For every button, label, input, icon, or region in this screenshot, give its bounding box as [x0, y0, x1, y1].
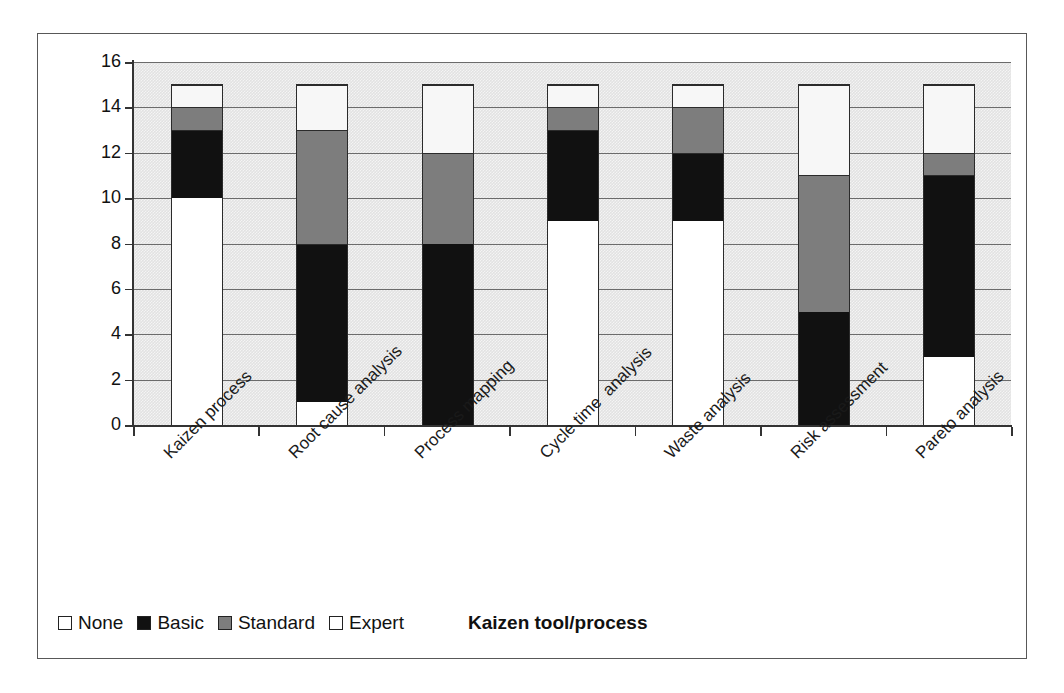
- legend-item-none[interactable]: None: [58, 612, 123, 634]
- legend-swatch-expert-icon: [329, 616, 343, 630]
- stacked-bar[interactable]: [171, 84, 223, 425]
- bar-segment-expert[interactable]: [924, 85, 974, 153]
- gridline: [133, 62, 1011, 63]
- bar-segment-standard[interactable]: [172, 107, 222, 130]
- y-tick-mark: [125, 198, 132, 200]
- legend-label: Basic: [157, 612, 203, 634]
- y-tick-mark: [125, 62, 132, 64]
- bar-segment-standard[interactable]: [799, 175, 849, 311]
- bar-segment-standard[interactable]: [673, 107, 723, 152]
- bar-segment-basic[interactable]: [673, 153, 723, 221]
- bar-segment-expert[interactable]: [548, 85, 598, 108]
- chart-figure: Number of team members 0246810121416 Kai…: [37, 33, 1027, 659]
- x-tick-mark: [509, 427, 511, 436]
- x-tick-mark: [635, 427, 637, 436]
- legend-item-expert[interactable]: Expert: [329, 612, 404, 634]
- bar-segment-expert[interactable]: [423, 85, 473, 153]
- legend-swatch-basic-icon: [137, 616, 151, 630]
- bar-segment-standard[interactable]: [297, 130, 347, 243]
- y-tick-mark: [125, 289, 132, 291]
- bar-segment-expert[interactable]: [673, 85, 723, 108]
- stacked-bar[interactable]: [923, 84, 975, 425]
- y-tick-label: 4: [81, 323, 121, 344]
- y-tick-label: 0: [81, 414, 121, 435]
- x-axis-title: Kaizen tool/process: [468, 612, 648, 634]
- legend-label: Standard: [238, 612, 315, 634]
- legend-swatch-standard-icon: [218, 616, 232, 630]
- y-tick-mark: [125, 107, 132, 109]
- x-tick-mark: [258, 427, 260, 436]
- legend-label: None: [78, 612, 123, 634]
- stacked-bar[interactable]: [798, 84, 850, 425]
- stacked-bar[interactable]: [672, 84, 724, 425]
- stacked-bar[interactable]: [422, 84, 474, 425]
- y-tick-label: 2: [81, 369, 121, 390]
- legend-item-basic[interactable]: Basic: [137, 612, 203, 634]
- y-tick-mark: [125, 425, 132, 427]
- y-tick-label: 14: [81, 96, 121, 117]
- y-tick-label: 16: [81, 51, 121, 72]
- bar-segment-basic[interactable]: [297, 244, 347, 403]
- x-tick-mark: [133, 427, 135, 436]
- y-tick-mark: [125, 153, 132, 155]
- bar-segment-expert[interactable]: [799, 85, 849, 176]
- y-tick-mark: [125, 244, 132, 246]
- bar-segment-standard[interactable]: [924, 153, 974, 176]
- x-tick-mark: [384, 427, 386, 436]
- x-tick-mark: [1011, 427, 1013, 436]
- x-tick-mark: [760, 427, 762, 436]
- y-axis-line: [132, 60, 134, 427]
- bar-segment-expert[interactable]: [297, 85, 347, 130]
- legend-label: Expert: [349, 612, 404, 634]
- chart-legend: NoneBasicStandardExpert: [58, 612, 418, 634]
- bar-segment-basic[interactable]: [172, 130, 222, 198]
- bar-segment-basic[interactable]: [548, 130, 598, 221]
- y-tick-mark: [125, 380, 132, 382]
- y-tick-label: 8: [81, 233, 121, 254]
- stacked-bar[interactable]: [547, 84, 599, 425]
- y-tick-mark: [125, 334, 132, 336]
- bar-segment-expert[interactable]: [172, 85, 222, 108]
- x-tick-mark: [886, 427, 888, 436]
- y-tick-label: 12: [81, 142, 121, 163]
- bar-segment-standard[interactable]: [423, 153, 473, 244]
- legend-item-standard[interactable]: Standard: [218, 612, 315, 634]
- bar-segment-basic[interactable]: [924, 175, 974, 357]
- legend-swatch-none-icon: [58, 616, 72, 630]
- bar-segment-none[interactable]: [172, 198, 222, 425]
- stacked-bar[interactable]: [296, 84, 348, 425]
- bar-segment-standard[interactable]: [548, 107, 598, 130]
- y-tick-label: 10: [81, 187, 121, 208]
- y-tick-label: 6: [81, 278, 121, 299]
